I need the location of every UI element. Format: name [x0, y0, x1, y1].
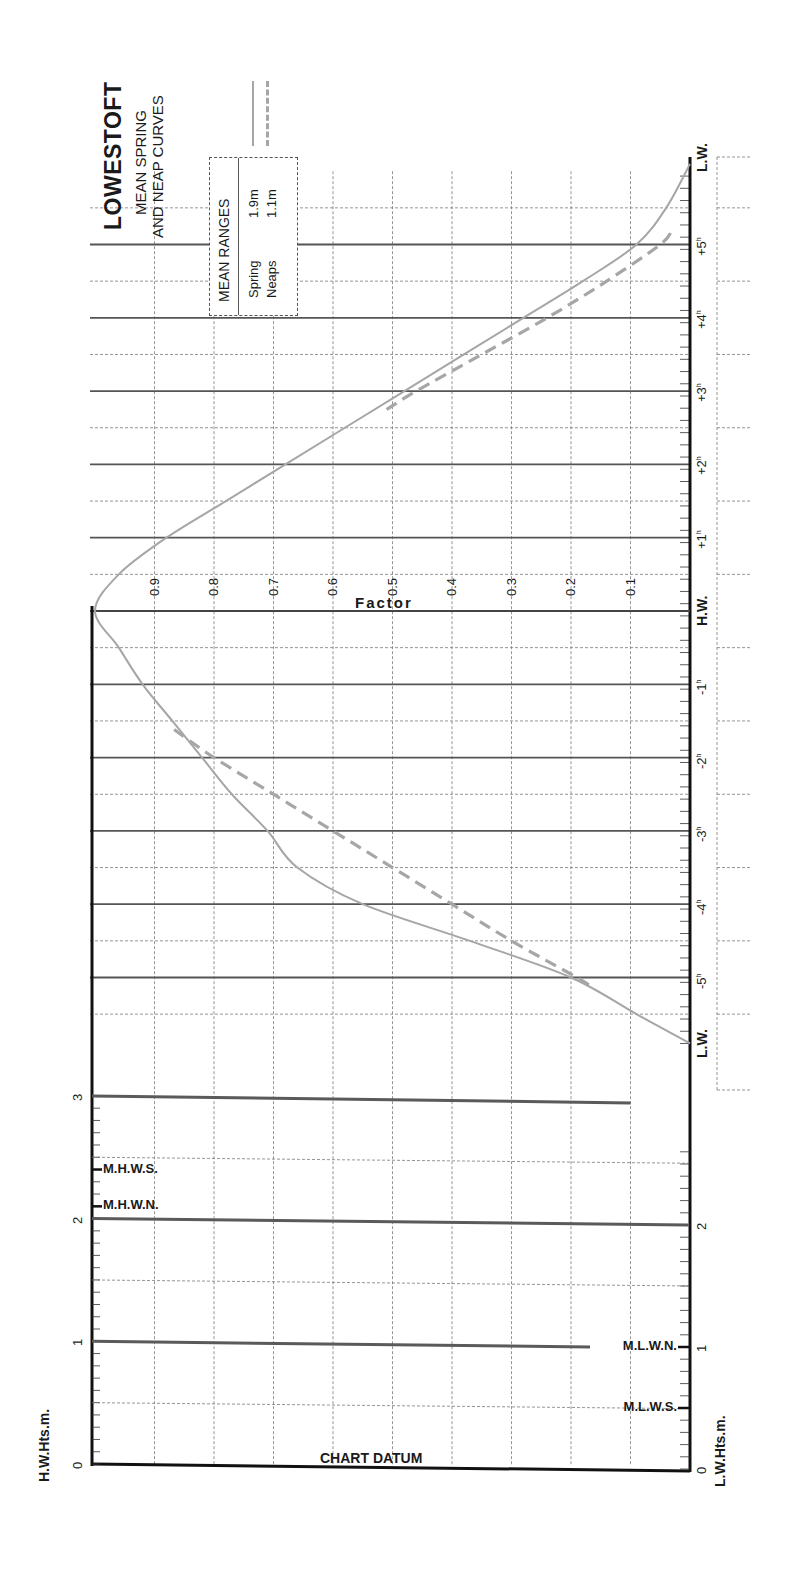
- neap-curve: [387, 230, 673, 410]
- factor-tick-label: 0.4: [444, 578, 459, 596]
- hw-level-marker-label: M.H.W.N.: [103, 1197, 159, 1212]
- factor-tick-label: 0.5: [385, 578, 400, 596]
- height-half-gridline: [92, 1280, 688, 1286]
- chart-title: LOWESTOFT: [100, 82, 127, 230]
- time-label: H.W.: [694, 596, 710, 626]
- factor-tick-label: 0.3: [504, 578, 519, 596]
- legend-spring-line-sample: [252, 81, 254, 146]
- time-label: +1h: [694, 530, 709, 549]
- factor-tick-label: 0.9: [147, 578, 162, 596]
- hw-height-tick-label: 1: [70, 1339, 85, 1346]
- time-label: L.W.: [694, 1030, 710, 1059]
- height-half-gridline: [92, 1403, 688, 1409]
- legend-neaps-line-sample: [266, 81, 269, 146]
- hw-heights-axis-label: H.W.Hts.m.: [36, 1409, 52, 1482]
- legend-spring-value: 1.9m: [247, 189, 261, 218]
- time-label: -4h: [694, 900, 709, 915]
- legend-neaps-label: Neaps: [265, 260, 279, 298]
- factor-tick-label: 0.2: [563, 578, 578, 596]
- lw-heights-axis-label: L.W.Hts.m.: [712, 1415, 728, 1487]
- lw-height-tick-label: 1: [694, 1345, 709, 1352]
- time-label: -3h: [694, 826, 709, 841]
- legend-spring-label: Spring: [247, 260, 261, 298]
- hw-height-tick-label: 2: [70, 1216, 85, 1223]
- factor-axis-title: Factor: [355, 594, 413, 611]
- chart-subtitle-line1: MEAN SPRING: [133, 110, 148, 215]
- hw-level-marker-label: M.H.W.S.: [103, 1161, 158, 1176]
- time-label: +4h: [694, 310, 709, 329]
- lw-height-tick-label: 2: [694, 1223, 709, 1230]
- height-half-gridline: [92, 1157, 688, 1163]
- height-line-1m: [92, 1341, 590, 1347]
- time-label: -1h: [694, 680, 709, 695]
- factor-tick-label: 0.6: [325, 578, 340, 596]
- height-line-3m: [92, 1096, 631, 1103]
- time-label: -2h: [694, 753, 709, 768]
- time-label: -5h: [694, 973, 709, 988]
- factor-tick-label: 0.8: [206, 578, 221, 596]
- height-line-2m: [92, 1219, 688, 1225]
- time-label: +5h: [694, 237, 709, 256]
- hw-height-tick-label: 3: [70, 1094, 85, 1101]
- lw-level-marker-label: M.L.W.N.: [623, 1338, 677, 1353]
- factor-tick-label: 0.1: [623, 578, 638, 596]
- factor-tick-label: 0.7: [266, 578, 281, 596]
- chart-subtitle-line2: AND NEAP CURVES: [150, 95, 165, 238]
- lw-height-tick-label: 0: [694, 1467, 709, 1474]
- time-label: L.W.: [694, 143, 710, 172]
- lw-level-marker-label: M.L.W.S.: [624, 1399, 677, 1414]
- time-label: +2h: [694, 457, 709, 476]
- time-label: +3h: [694, 383, 709, 402]
- hw-height-tick-label: 0: [70, 1462, 85, 1469]
- legend-neaps-value: 1.1m: [265, 189, 279, 218]
- chart-datum-label: CHART DATUM: [320, 1450, 422, 1466]
- legend-heading: MEAN RANGES: [216, 199, 232, 302]
- neap-curve: [172, 728, 588, 985]
